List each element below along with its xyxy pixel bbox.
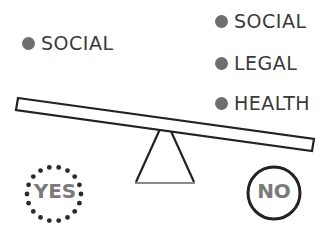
seesaw-beam [16, 98, 314, 151]
yes-label: YES [31, 181, 79, 201]
no-label: NO [251, 181, 297, 201]
